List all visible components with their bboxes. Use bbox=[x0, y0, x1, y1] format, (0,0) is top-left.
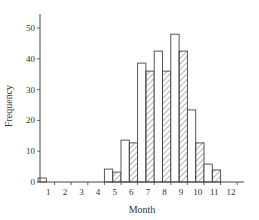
bar-hatched-month-11 bbox=[212, 170, 220, 182]
x-axis-label: Month bbox=[129, 204, 156, 215]
bar-open-month-7 bbox=[138, 63, 146, 182]
x-tick-label: 11 bbox=[210, 187, 219, 197]
bars-group bbox=[38, 34, 221, 182]
bar-hatched-month-7 bbox=[146, 71, 154, 182]
bar-open-month-6 bbox=[121, 140, 129, 182]
y-tick-label: 30 bbox=[26, 85, 36, 95]
x-tick-label: 3 bbox=[79, 187, 84, 197]
x-tick-label: 7 bbox=[146, 187, 151, 197]
y-tick-label: 50 bbox=[26, 23, 36, 33]
y-axis-label: Frequency bbox=[3, 85, 14, 127]
bar-hatched-month-6 bbox=[129, 143, 137, 182]
x-tick-label: 6 bbox=[129, 187, 134, 197]
x-tick-label: 12 bbox=[226, 187, 235, 197]
y-tick-label: 10 bbox=[26, 146, 36, 156]
y-tick-label: 40 bbox=[26, 54, 36, 64]
bar-open-month-11 bbox=[204, 164, 212, 182]
x-tick-label: 10 bbox=[193, 187, 203, 197]
bar-open-month-5 bbox=[104, 169, 112, 182]
bar-open-month-10 bbox=[187, 110, 195, 182]
bar-hatched-month-9 bbox=[179, 51, 187, 182]
bar-open-month-1 bbox=[38, 178, 46, 182]
x-tick-label: 9 bbox=[179, 187, 184, 197]
y-tick-label: 0 bbox=[31, 177, 36, 187]
histogram-chart: 12345678910111201020304050 Month Frequen… bbox=[0, 0, 259, 220]
x-tick-label: 1 bbox=[46, 187, 51, 197]
bar-hatched-month-5 bbox=[113, 172, 121, 182]
bar-hatched-month-8 bbox=[163, 71, 171, 182]
bar-open-month-8 bbox=[154, 51, 162, 182]
x-tick-label: 4 bbox=[96, 187, 101, 197]
y-tick-label: 20 bbox=[26, 115, 36, 125]
x-tick-label: 8 bbox=[162, 187, 167, 197]
bar-open-month-9 bbox=[171, 34, 179, 182]
x-tick-label: 5 bbox=[112, 187, 117, 197]
bar-hatched-month-10 bbox=[196, 143, 204, 182]
x-tick-label: 2 bbox=[63, 187, 68, 197]
